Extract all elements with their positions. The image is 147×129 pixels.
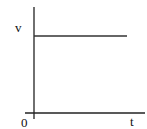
velocity-time-graph: v t 0 bbox=[0, 0, 147, 129]
y-axis-label: v bbox=[15, 20, 22, 35]
origin-label: 0 bbox=[21, 115, 28, 129]
x-axis-label: t bbox=[130, 114, 134, 129]
